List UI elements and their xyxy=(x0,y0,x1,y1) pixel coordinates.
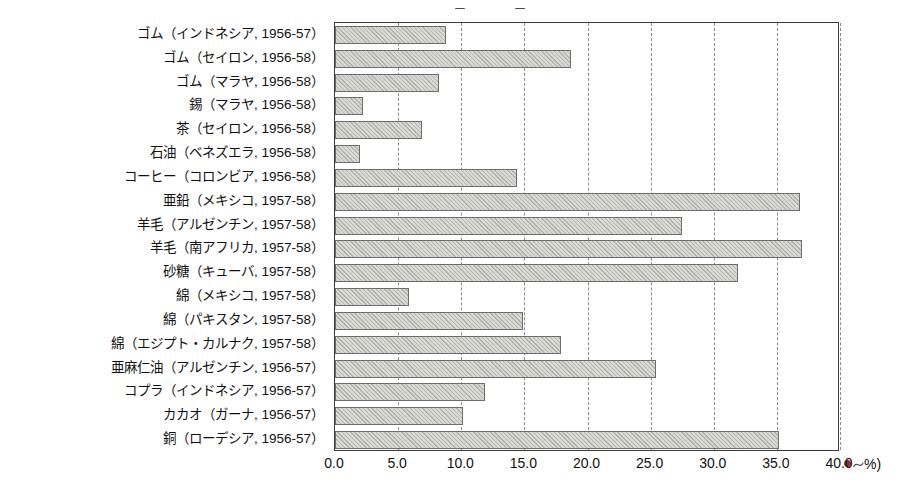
bar xyxy=(335,240,802,258)
bar-row xyxy=(335,26,840,44)
bar-row xyxy=(335,169,840,187)
x-tick-label: 15.0 xyxy=(510,455,537,471)
bar xyxy=(335,288,409,306)
category-label: 砂糖（キューバ, 1957-58） xyxy=(163,263,324,281)
bar-row xyxy=(335,264,840,282)
category-label: 茶（セイロン, 1956-58） xyxy=(176,120,324,138)
bar-row xyxy=(335,431,840,449)
bar xyxy=(335,97,363,115)
plot-area xyxy=(334,22,839,451)
bar-row xyxy=(335,121,840,139)
category-label: ゴム（インドネシア, 1956-57） xyxy=(137,25,324,43)
category-label: 綿（パキスタン, 1957-58） xyxy=(163,311,324,329)
gridline xyxy=(840,23,841,450)
bar xyxy=(335,217,682,235)
bar-series xyxy=(335,23,838,450)
category-label: 錫（マラヤ, 1956-58） xyxy=(189,96,324,114)
bar-row xyxy=(335,145,840,163)
bar-row xyxy=(335,217,840,235)
category-label: 羊毛（南アフリカ, 1957-58） xyxy=(150,239,324,257)
bar xyxy=(335,50,571,68)
bar xyxy=(335,312,523,330)
category-label: 亜麻仁油（アルゼンチン, 1956-57） xyxy=(111,359,324,377)
bar-row xyxy=(335,50,840,68)
edge-fragment: ー xyxy=(514,0,526,17)
category-label: 綿（メキシコ, 1957-58） xyxy=(176,287,324,305)
bar xyxy=(335,121,422,139)
x-tick-label: 0.0 xyxy=(324,455,343,471)
category-label: 銅（ローデシア, 1956-57） xyxy=(163,430,324,448)
bar xyxy=(335,26,446,44)
bar xyxy=(335,264,738,282)
bar xyxy=(335,145,360,163)
bar-row xyxy=(335,288,840,306)
bar-row xyxy=(335,193,840,211)
bar xyxy=(335,383,485,401)
top-edge-artifact: ーー xyxy=(334,0,839,20)
category-axis-labels: ゴム（インドネシア, 1956-57）ゴム（セイロン, 1956-58）ゴム（マ… xyxy=(0,22,330,451)
bar xyxy=(335,407,463,425)
category-label: 石油（ベネズエラ, 1956-58） xyxy=(150,144,324,162)
category-label: コーヒー（コロンビア, 1956-58） xyxy=(124,168,324,186)
x-tick-label: 5.0 xyxy=(387,455,406,471)
bar xyxy=(335,193,800,211)
chart-root: ーー ゴム（インドネシア, 1956-57）ゴム（セイロン, 1956-58）ゴ… xyxy=(0,0,908,499)
category-label: ゴム（マラヤ, 1956-58） xyxy=(176,73,324,91)
category-label: 亜鉛（メキシコ, 1957-58） xyxy=(163,192,324,210)
bar-row xyxy=(335,360,840,378)
x-tick-label: 20.0 xyxy=(573,455,600,471)
bar-row xyxy=(335,312,840,330)
bar-row xyxy=(335,383,840,401)
bar-row xyxy=(335,97,840,115)
x-tick-label: 30.0 xyxy=(699,455,726,471)
bar xyxy=(335,169,517,187)
category-label: ゴム（セイロン, 1956-58） xyxy=(163,49,324,67)
bar xyxy=(335,431,779,449)
bar-row xyxy=(335,407,840,425)
category-label: カカオ（ガーナ, 1956-57） xyxy=(163,406,324,424)
bar xyxy=(335,336,561,354)
bar-row xyxy=(335,74,840,92)
edge-fragment: ー xyxy=(454,0,466,17)
category-label: コプラ（インドネシア, 1956-57） xyxy=(124,382,324,400)
bar-row xyxy=(335,336,840,354)
x-tick-label: 35.0 xyxy=(762,455,789,471)
category-label: 綿（エジプト・カルナク, 1957-58） xyxy=(111,335,324,353)
bar-row xyxy=(335,240,840,258)
bar xyxy=(335,360,656,378)
x-tick-label: 25.0 xyxy=(636,455,663,471)
x-tick-label: 10.0 xyxy=(447,455,474,471)
bar xyxy=(335,74,439,92)
category-label: 羊毛（アルゼンチン, 1957-58） xyxy=(137,216,324,234)
x-tick-label: 40.0 xyxy=(825,455,852,471)
